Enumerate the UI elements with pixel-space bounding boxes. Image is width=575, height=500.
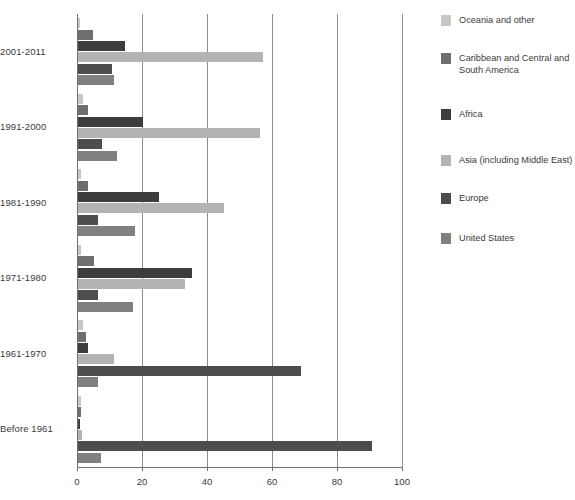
x-axis-line (77, 467, 403, 468)
gridlines (77, 14, 402, 467)
y-axis-category-label: 1971-1980 (0, 272, 73, 283)
gridline (337, 14, 338, 467)
bar (78, 320, 83, 330)
legend-label: Africa (459, 108, 575, 120)
y-axis-category-label: 1981-1990 (0, 197, 73, 208)
legend-swatch-icon (441, 53, 451, 64)
x-tick-mark (337, 467, 338, 471)
x-tick-label: 60 (267, 476, 278, 487)
y-axis-category-label: Before 1961 (0, 423, 73, 434)
bar (78, 139, 102, 149)
bar (78, 430, 82, 440)
legend-swatch-icon (441, 109, 451, 120)
x-tick-label: 20 (137, 476, 148, 487)
bar (78, 181, 88, 191)
bar (78, 105, 88, 115)
bar (78, 117, 143, 127)
y-axis-category-label: 1991-2000 (0, 121, 73, 132)
bar (78, 407, 81, 417)
bar (78, 343, 88, 353)
legend-swatch-icon (441, 15, 451, 26)
bar-chart: 2001-20111991-20001981-19901971-19801961… (0, 0, 575, 500)
bar (78, 268, 192, 278)
bar (78, 377, 98, 387)
x-tick-label: 100 (394, 476, 410, 487)
bar (78, 441, 372, 451)
bar (78, 366, 301, 376)
bar (78, 64, 112, 74)
x-tick-mark (402, 467, 403, 471)
bar (78, 41, 125, 51)
bar (78, 453, 101, 463)
bar (78, 256, 94, 266)
legend-swatch-icon (441, 233, 451, 244)
plot-area: 2001-20111991-20001981-19901971-19801961… (0, 0, 430, 500)
x-tick-mark (77, 467, 78, 471)
bar (78, 151, 117, 161)
bar (78, 226, 135, 236)
bar (78, 75, 114, 85)
bar (78, 30, 93, 40)
bar (78, 128, 260, 138)
x-tick-label: 40 (202, 476, 213, 487)
bar (78, 419, 80, 429)
bar (78, 354, 114, 364)
legend-swatch-icon (441, 193, 451, 204)
legend-label: Caribbean and Central and South America (459, 52, 575, 76)
bar (78, 169, 81, 179)
legend-label: Oceania and other (459, 14, 575, 26)
bar (78, 279, 185, 289)
y-axis-category-label: 2001-2011 (0, 46, 73, 57)
legend-label: United States (459, 232, 575, 244)
bar (78, 332, 86, 342)
x-tick-label: 0 (74, 476, 79, 487)
gridline (142, 14, 143, 467)
bar (78, 192, 159, 202)
bar (78, 18, 80, 28)
gridline (207, 14, 208, 467)
bar (78, 396, 81, 406)
gridline (402, 14, 403, 467)
x-tick-label: 80 (332, 476, 343, 487)
bar (78, 52, 263, 62)
legend-label: Asia (including Middle East) (459, 154, 575, 166)
x-tick-mark (272, 467, 273, 471)
y-axis-category-labels: 2001-20111991-20001981-19901971-19801961… (0, 0, 73, 467)
x-tick-mark (207, 467, 208, 471)
bar (78, 245, 81, 255)
bar (78, 290, 98, 300)
x-tick-mark (142, 467, 143, 471)
bar (78, 302, 133, 312)
bar (78, 203, 224, 213)
legend-swatch-icon (441, 155, 451, 166)
legend-label: Europe (459, 192, 575, 204)
bar (78, 94, 83, 104)
y-axis-category-label: 1961-1970 (0, 348, 73, 359)
bar (78, 215, 98, 225)
gridline (272, 14, 273, 467)
